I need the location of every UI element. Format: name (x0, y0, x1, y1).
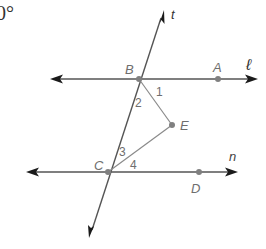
point-b (136, 76, 142, 82)
point-c (105, 169, 111, 175)
point-b-label: B (125, 62, 134, 77)
line-t-label: t (171, 7, 176, 22)
point-a-label: A (212, 60, 222, 75)
angle-4-label: 4 (130, 158, 137, 172)
line-l-label: ℓ (245, 56, 252, 73)
segment-ce (108, 125, 172, 172)
point-e-label: E (180, 118, 189, 133)
geometry-diagram: 0° ℓ n t B A E C D 1 2 3 4 (0, 0, 266, 249)
point-d (196, 169, 202, 175)
angle-2-label: 2 (135, 96, 142, 110)
line-l (50, 75, 258, 84)
cutoff-text-fragment: 0° (0, 2, 14, 24)
point-a (215, 76, 221, 82)
angle-3-label: 3 (119, 145, 126, 159)
arrow-down-icon (88, 225, 94, 238)
point-c-label: C (94, 158, 104, 173)
point-d-label: D (191, 181, 200, 196)
line-t (88, 10, 165, 238)
point-e (169, 122, 175, 128)
angle-1-label: 1 (156, 85, 163, 99)
line-n-label: n (229, 149, 236, 164)
